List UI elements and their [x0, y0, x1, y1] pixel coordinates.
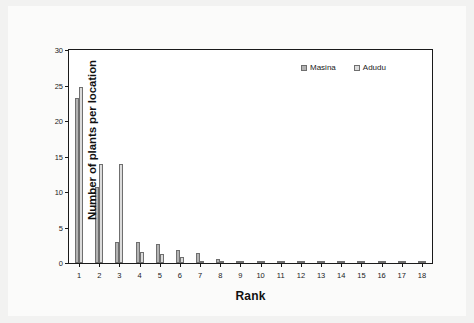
y-axis-title: Number of plants per location	[86, 25, 98, 255]
bar-adudu-rank-4	[140, 252, 144, 263]
x-tick-mark	[422, 263, 423, 267]
figure-canvas: Number of plants per location Masina Adu…	[0, 0, 474, 323]
y-tick-mark	[65, 86, 69, 87]
y-tick-label: 5	[39, 223, 63, 232]
legend-item-adudu: Adudu	[354, 63, 386, 72]
y-tick-mark	[65, 121, 69, 122]
x-axis-title: Rank	[68, 289, 433, 303]
y-tick-label: 15	[39, 152, 63, 161]
bar-adudu-rank-5	[160, 254, 164, 263]
y-tick-label: 0	[39, 259, 63, 268]
x-tick-mark	[180, 263, 181, 267]
x-tick-mark	[200, 263, 201, 267]
x-tick-mark	[160, 263, 161, 267]
bar-adudu-rank-3	[119, 164, 123, 263]
y-tick-mark	[65, 192, 69, 193]
y-tick-mark	[65, 50, 69, 51]
x-tick-mark	[301, 263, 302, 267]
bar-adudu-rank-2	[99, 164, 103, 263]
y-tick-mark	[65, 228, 69, 229]
x-tick-mark	[261, 263, 262, 267]
x-tick-mark	[281, 263, 282, 267]
chart-legend: Masina Adudu	[301, 63, 386, 72]
legend-swatch-icon-adudu	[354, 65, 360, 71]
x-tick-mark	[119, 263, 120, 267]
plot-inner	[69, 50, 432, 263]
figure-page: Number of plants per location Masina Adu…	[8, 6, 466, 316]
bar-adudu-rank-1	[79, 87, 83, 263]
y-tick-label: 25	[39, 81, 63, 90]
legend-label-adudu: Adudu	[363, 63, 386, 72]
x-tick-mark	[79, 263, 80, 267]
x-tick-mark	[220, 263, 221, 267]
y-tick-label: 30	[39, 46, 63, 55]
legend-item-masina: Masina	[301, 63, 336, 72]
y-tick-mark	[65, 263, 69, 264]
x-tick-mark	[341, 263, 342, 267]
legend-label-masina: Masina	[310, 63, 336, 72]
y-tick-mark	[65, 157, 69, 158]
y-tick-label: 20	[39, 117, 63, 126]
y-tick-label: 10	[39, 188, 63, 197]
x-tick-mark	[382, 263, 383, 267]
x-tick-mark	[402, 263, 403, 267]
x-tick-label: 18	[409, 271, 435, 280]
x-tick-mark	[240, 263, 241, 267]
legend-swatch-icon-masina	[301, 65, 307, 71]
x-tick-mark	[99, 263, 100, 267]
x-tick-mark	[361, 263, 362, 267]
plot-area: Number of plants per location Masina Adu…	[68, 49, 433, 264]
x-tick-mark	[321, 263, 322, 267]
x-tick-mark	[140, 263, 141, 267]
